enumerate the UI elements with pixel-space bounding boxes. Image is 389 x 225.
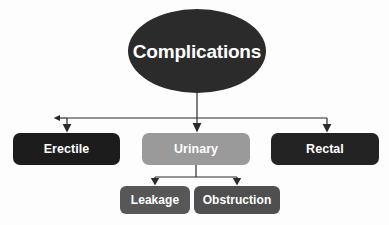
arrowhead-obstruction [233,178,241,186]
node-leakage-label: Leakage [131,194,179,206]
arrowhead-rectal [323,124,332,133]
node-rectal[interactable]: Rectal [271,133,379,165]
arrowhead-erectile [63,124,72,133]
node-erectile-label: Erectile [44,143,90,156]
node-leakage[interactable]: Leakage [120,186,190,214]
node-urinary-label: Urinary [174,143,218,156]
node-erectile[interactable]: Erectile [13,133,120,165]
arrowhead-leakage [151,178,159,186]
node-urinary[interactable]: Urinary [142,133,250,165]
node-obstruction-label: Obstruction [203,194,272,206]
node-complications-label: Complications [133,42,261,61]
node-rectal-label: Rectal [306,143,344,156]
node-complications[interactable]: Complications [128,9,266,93]
flowchart-diagram: Complications Erectile Urinary Rectal Le… [0,0,389,225]
arrowhead-urinary [193,123,202,133]
node-obstruction[interactable]: Obstruction [194,186,280,214]
